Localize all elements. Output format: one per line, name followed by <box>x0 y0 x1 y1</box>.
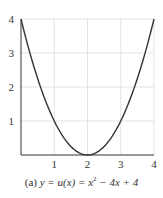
caption-lhs: y = u(x) = x <box>40 176 93 188</box>
y-tick-label: 4 <box>9 13 15 25</box>
caption-rhs: − 4x + 4 <box>97 176 139 188</box>
x-tick-label: 4 <box>151 158 157 170</box>
parabola-chart: 12341234 <box>0 0 163 175</box>
x-tick-label: 1 <box>52 158 58 170</box>
y-tick-label: 3 <box>9 47 15 59</box>
x-tick-label: 2 <box>85 158 91 170</box>
y-tick-label: 1 <box>9 115 15 127</box>
caption-label: (a) <box>25 176 37 188</box>
tick-labels: 12341234 <box>9 13 158 170</box>
x-tick-label: 3 <box>118 158 124 170</box>
chart-caption: (a) y = u(x) = x2 − 4x + 4 <box>0 176 163 188</box>
y-tick-label: 2 <box>9 81 15 93</box>
